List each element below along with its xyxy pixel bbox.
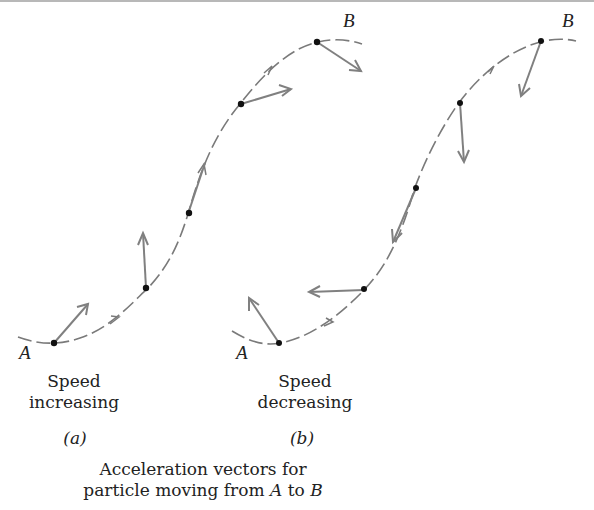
caption-point-a: A <box>270 480 282 500</box>
panel-a-vectors <box>54 42 361 343</box>
panel-b-caption-line1: Speed <box>250 371 360 392</box>
panel-a-caption-line1: Speed <box>22 371 126 392</box>
figure-caption-line1: Acceleration vectors for <box>58 459 348 480</box>
panel-a-path <box>18 40 362 343</box>
panel-a-caption: Speed increasing <box>22 371 126 413</box>
caption-point-b: B <box>310 480 323 500</box>
figure-caption: Acceleration vectors for particle moving… <box>58 459 348 501</box>
panel-b-points <box>276 38 544 346</box>
panel-a-start-label: A <box>19 342 31 364</box>
caption-text-to: to <box>282 480 310 500</box>
panel-b-vectors <box>249 41 541 343</box>
panel-b-end-label: B <box>562 10 574 32</box>
panel-b-start-label: A <box>236 342 248 364</box>
panel-a-tag: (a) <box>55 428 95 449</box>
panel-a-caption-line2: increasing <box>22 392 126 413</box>
caption-text: particle moving from <box>83 480 270 500</box>
panel-b-tag: (b) <box>282 428 322 449</box>
panel-a-path-arrowheads <box>110 66 272 324</box>
panel-b-path-arrowheads <box>324 66 494 326</box>
panel-b-caption-line2: decreasing <box>250 392 360 413</box>
panel-b-caption: Speed decreasing <box>250 371 360 413</box>
panel-a-end-label: B <box>343 10 355 32</box>
figure-caption-line2: particle moving from A to B <box>58 480 348 501</box>
